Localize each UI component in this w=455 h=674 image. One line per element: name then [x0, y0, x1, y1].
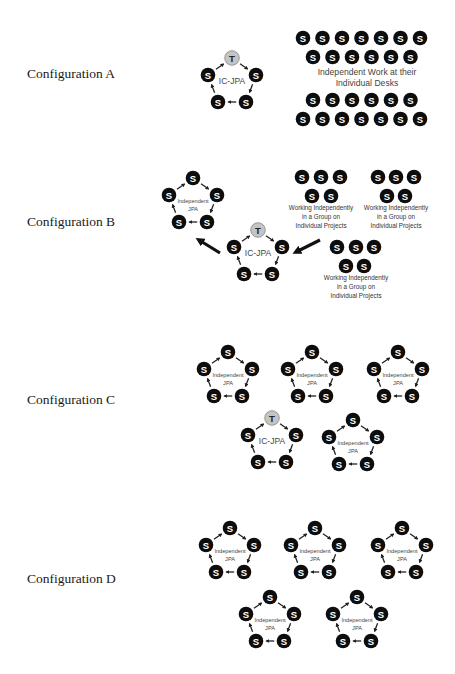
flow-arrow-icon [320, 358, 328, 363]
student-label: S [243, 609, 249, 620]
student-node: S [172, 215, 187, 230]
student-label: S [371, 242, 377, 253]
jpa-center-label: JPA [188, 206, 198, 212]
student-node: S [295, 170, 310, 185]
flow-arrow-icon [337, 624, 340, 632]
student-node: S [419, 538, 434, 553]
student-node: S [407, 170, 422, 185]
group-caption: in a Group on [377, 213, 416, 221]
student-node: S [308, 521, 323, 536]
student-label: S [309, 191, 315, 202]
student-label: S [423, 540, 429, 551]
student-node: S [354, 112, 369, 127]
desks-caption: Independent Work at their [318, 67, 417, 77]
student-node: S [305, 345, 320, 360]
student-label: S [358, 114, 364, 125]
student-label: S [375, 172, 381, 183]
student-label: S [251, 540, 257, 551]
student-label: S [328, 191, 334, 202]
jpa-center-label: Independent [214, 548, 246, 554]
student-node: S [291, 389, 306, 404]
student-node: S [277, 634, 292, 649]
student-label: S [253, 636, 259, 647]
flow-arrow-icon [248, 554, 251, 562]
student-label: S [417, 33, 423, 44]
flow-arrow-icon [292, 379, 295, 387]
student-node: S [364, 93, 379, 108]
jpa-center-label: Independent [382, 372, 414, 378]
flow-arrow-icon [173, 205, 176, 213]
student-node: S [245, 362, 260, 377]
student-label: S [413, 567, 419, 578]
student-label: S [343, 261, 349, 272]
student-label: S [255, 457, 261, 468]
student-node: S [281, 362, 296, 377]
student-label: S [397, 33, 403, 44]
student-label: S [407, 95, 413, 106]
teacher-label: T [255, 225, 261, 236]
student-label: S [249, 364, 255, 375]
student-label: S [411, 172, 417, 183]
student-label: S [243, 97, 249, 108]
student-node: S [201, 68, 216, 83]
student-node: S [370, 430, 385, 445]
student-label: S [319, 33, 325, 44]
group-caption: in a Group on [302, 213, 341, 221]
student-label: S [318, 172, 324, 183]
student-label: S [299, 172, 305, 183]
flow-arrow-icon [216, 64, 224, 69]
flow-arrow-icon [250, 624, 253, 632]
flow-arrow-icon [177, 184, 185, 189]
desks-caption: Individual Desks [336, 78, 399, 88]
student-label: S [319, 114, 325, 125]
flow-arrow-icon [382, 358, 390, 363]
flow-arrow-icon [256, 424, 264, 429]
student-node: S [403, 50, 418, 65]
student-node: S [289, 428, 304, 443]
student-node: S [345, 50, 360, 65]
student-node: S [249, 68, 264, 83]
student-node: S [235, 389, 250, 404]
jpa-center-label: JPA [265, 625, 275, 631]
student-node: S [207, 389, 222, 404]
flow-arrow-icon [288, 623, 291, 631]
student-node: S [357, 259, 372, 274]
flow-arrow-icon [278, 603, 286, 608]
student-node: S [349, 240, 364, 255]
student-label: S [339, 114, 345, 125]
student-node: S [409, 565, 424, 580]
student-node: S [305, 189, 320, 204]
student-node: S [209, 565, 224, 580]
student-node: S [284, 538, 299, 553]
student-label: S [353, 242, 359, 253]
configuration-label: Configuration A [27, 66, 115, 81]
student-node: S [314, 170, 329, 185]
ic-jpa-center-label: IC-JPA [259, 436, 286, 446]
flow-arrow-icon [280, 424, 288, 429]
student-label: S [388, 95, 394, 106]
teacher-label: T [269, 413, 275, 424]
configurations-diagram: TSSSSSSSSSSSSSSSSSSSSSSSSSSSSSSSSSSSTSSS… [0, 0, 455, 674]
ic-jpa-center-label: IC-JPA [219, 76, 246, 86]
student-label: S [300, 114, 306, 125]
transition-arrow-icon [199, 240, 220, 253]
student-node: S [360, 457, 375, 472]
student-label: S [374, 432, 380, 443]
flow-arrow-icon [375, 623, 378, 631]
configuration-label: Configuration C [27, 392, 115, 407]
student-label: S [336, 540, 342, 551]
student-node: S [227, 240, 242, 255]
student-node: S [332, 457, 347, 472]
student-label: S [214, 190, 220, 201]
student-label: S [378, 114, 384, 125]
group-caption: Working Independently [324, 274, 389, 282]
student-label: S [285, 364, 291, 375]
student-label: S [211, 391, 217, 402]
student-label: S [378, 33, 384, 44]
jpa-center-label: Independent [386, 548, 418, 554]
student-node: S [332, 538, 347, 553]
student-label: S [329, 95, 335, 106]
flow-arrow-icon [299, 534, 307, 539]
student-label: S [309, 347, 315, 358]
student-label: S [288, 540, 294, 551]
